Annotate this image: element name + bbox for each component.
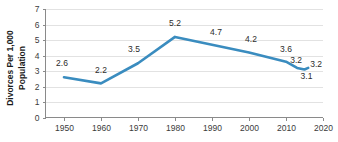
y-tick-label: 0	[35, 113, 40, 123]
x-axis-ticks: 19501960197019801990200020102020	[55, 118, 333, 133]
gridlines	[46, 10, 324, 103]
y-axis-title: Divorces Per 1,000 Population	[5, 30, 27, 106]
x-tick-label: 2000	[240, 123, 259, 133]
y-tick-label: 2	[35, 82, 40, 92]
chart-canvas: Divorces Per 1,000 Population 01234567 1…	[0, 0, 338, 142]
y-tick-label: 1	[35, 97, 40, 107]
y-axis-ticks: 01234567	[35, 4, 46, 123]
data-point-label: 3.6	[280, 44, 292, 54]
data-point-label: 3.1	[301, 71, 313, 81]
y-tick-label: 3	[35, 66, 40, 76]
data-point-label: 3.2	[290, 55, 302, 65]
divorce-rate-line-chart: Divorces Per 1,000 Population 01234567 1…	[0, 0, 338, 142]
x-tick-label: 1960	[92, 123, 111, 133]
x-tick-label: 1980	[166, 123, 185, 133]
x-tick-label: 2010	[277, 123, 296, 133]
divorce-rate-series	[64, 37, 308, 84]
data-point-label: 2.6	[56, 58, 68, 68]
y-axis-title-line1: Divorces Per 1,000	[5, 30, 15, 106]
data-point-label: 4.7	[210, 27, 222, 37]
y-tick-label: 5	[35, 35, 40, 45]
y-tick-label: 7	[35, 4, 40, 14]
data-point-label: 3.2	[310, 59, 322, 69]
y-tick-label: 6	[35, 20, 40, 30]
data-point-label: 5.2	[169, 18, 181, 28]
x-tick-label: 1970	[129, 123, 148, 133]
y-tick-label: 4	[35, 51, 40, 61]
data-point-label: 3.5	[128, 44, 140, 54]
x-tick-label: 2020	[314, 123, 333, 133]
y-axis-title-line2: Population	[17, 46, 27, 90]
data-point-label: 2.2	[95, 65, 107, 75]
data-point-label: 4.2	[245, 34, 257, 44]
x-tick-label: 1990	[203, 123, 222, 133]
x-tick-label: 1950	[55, 123, 74, 133]
